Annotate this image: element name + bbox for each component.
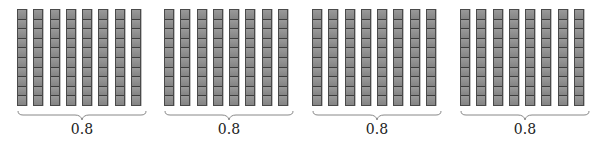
unit-cube xyxy=(329,58,337,68)
unit-cube xyxy=(494,10,502,20)
unit-cube xyxy=(165,39,173,49)
unit-cube xyxy=(181,39,189,49)
unit-cube xyxy=(427,58,435,68)
unit-cube xyxy=(246,77,254,87)
unit-cube xyxy=(362,29,370,39)
unit-cube xyxy=(559,20,567,30)
unit-cube xyxy=(329,48,337,58)
unit-cube xyxy=(362,10,370,20)
unit-cube xyxy=(263,39,271,49)
tens-rod xyxy=(180,9,190,106)
unit-cube xyxy=(542,20,550,30)
unit-cube xyxy=(18,10,26,20)
unit-cube xyxy=(181,10,189,20)
unit-cube xyxy=(526,29,534,39)
unit-cube xyxy=(165,77,173,87)
unit-cube xyxy=(214,87,222,97)
unit-cube xyxy=(51,87,59,97)
tens-rod xyxy=(98,9,108,106)
unit-cube xyxy=(575,20,583,30)
unit-cube xyxy=(575,10,583,20)
unit-cube xyxy=(575,48,583,58)
unit-cube xyxy=(99,58,107,68)
unit-cube xyxy=(165,87,173,97)
unit-cube xyxy=(510,87,518,97)
unit-cube xyxy=(494,20,502,30)
unit-cube xyxy=(477,58,485,68)
tens-rod xyxy=(328,9,338,106)
unit-cube xyxy=(329,29,337,39)
unit-cube xyxy=(313,77,321,87)
unit-cube xyxy=(461,48,469,58)
unit-cube xyxy=(263,77,271,87)
unit-cube xyxy=(427,87,435,97)
unit-cube xyxy=(427,10,435,20)
unit-cube xyxy=(132,20,140,30)
unit-cube xyxy=(542,39,550,49)
group-value-label: 0.8 xyxy=(312,121,442,137)
unit-cube xyxy=(461,29,469,39)
unit-cube xyxy=(214,96,222,105)
unit-cube xyxy=(394,48,402,58)
unit-cube xyxy=(411,77,419,87)
unit-cube xyxy=(263,20,271,30)
unit-cube xyxy=(494,68,502,78)
unit-cube xyxy=(132,29,140,39)
tens-rod xyxy=(525,9,535,106)
unit-cube xyxy=(67,58,75,68)
unit-cube xyxy=(34,39,42,49)
unit-cube xyxy=(51,68,59,78)
unit-cube xyxy=(510,39,518,49)
unit-cube xyxy=(313,87,321,97)
unit-cube xyxy=(230,20,238,30)
unit-cube xyxy=(116,96,124,105)
unit-cube xyxy=(116,39,124,49)
unit-cube xyxy=(510,29,518,39)
tens-rod xyxy=(541,9,551,106)
unit-cube xyxy=(246,10,254,20)
tens-rod xyxy=(82,9,92,106)
unit-cube xyxy=(542,58,550,68)
unit-cube xyxy=(34,96,42,105)
unit-cube xyxy=(427,39,435,49)
unit-cube xyxy=(198,29,206,39)
unit-cube xyxy=(99,10,107,20)
unit-cube xyxy=(510,48,518,58)
group-value-label: 0.8 xyxy=(460,121,590,137)
unit-cube xyxy=(526,87,534,97)
unit-cube xyxy=(427,68,435,78)
unit-cube xyxy=(494,48,502,58)
unit-cube xyxy=(34,77,42,87)
unit-cube xyxy=(461,20,469,30)
unit-cube xyxy=(181,48,189,58)
unit-cube xyxy=(279,77,287,87)
tens-rod xyxy=(476,9,486,106)
unit-cube xyxy=(214,48,222,58)
unit-cube xyxy=(51,96,59,105)
unit-cube xyxy=(362,87,370,97)
unit-cube xyxy=(18,29,26,39)
unit-cube xyxy=(461,39,469,49)
unit-cube xyxy=(559,10,567,20)
unit-cube xyxy=(165,20,173,30)
unit-cube xyxy=(494,39,502,49)
unit-cube xyxy=(214,29,222,39)
tens-rod xyxy=(213,9,223,106)
unit-cube xyxy=(99,96,107,105)
unit-cube xyxy=(18,87,26,97)
unit-cube xyxy=(346,77,354,87)
unit-cube xyxy=(198,10,206,20)
unit-cube xyxy=(477,68,485,78)
unit-cube xyxy=(34,48,42,58)
unit-cube xyxy=(18,96,26,105)
unit-cube xyxy=(246,87,254,97)
unit-cube xyxy=(99,39,107,49)
unit-cube xyxy=(378,58,386,68)
unit-cube xyxy=(313,29,321,39)
unit-cube xyxy=(165,48,173,58)
unit-cube xyxy=(477,39,485,49)
unit-cube xyxy=(198,39,206,49)
tens-rod xyxy=(33,9,43,106)
tens-rod xyxy=(377,9,387,106)
unit-cube xyxy=(279,20,287,30)
